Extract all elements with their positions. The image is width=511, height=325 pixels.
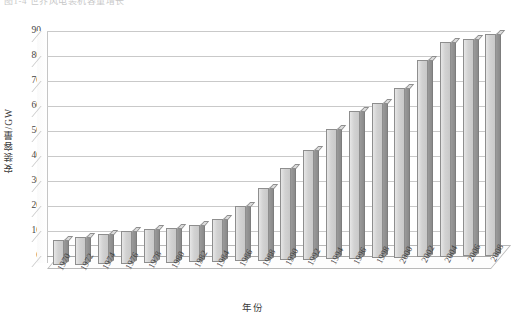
bar-side [314,146,319,260]
bar-front [349,111,360,259]
bar-top [269,184,278,189]
bar-front [417,60,428,258]
bar-top [132,227,141,232]
bar-top [246,202,255,207]
bar-top [86,233,95,238]
x-axis-title: 年份 [242,300,264,314]
bar-top [405,84,414,89]
bar-front [372,103,383,258]
plot-area [47,31,491,263]
bar-top [337,125,346,130]
bar-2004 [440,42,451,257]
bar-top [474,35,483,40]
bar-1990 [280,168,291,261]
bar-top [177,224,186,229]
bar-top [383,99,392,104]
bar-top [109,230,118,235]
bar-top [200,221,209,226]
x-axis: 1970197219741976197819801982198419861988… [0,266,498,325]
bar-front [440,42,451,257]
bar-side [428,56,433,257]
bar-2000 [394,88,405,258]
bar-side [383,99,388,258]
bar-top [428,56,437,61]
bar-side [451,38,456,257]
bar-top [291,164,300,169]
bar-2008 [485,34,496,257]
bar-front [280,168,291,261]
bar-top [155,225,164,230]
bar-front [303,150,314,260]
bar-side [405,84,410,258]
bar-top [223,215,232,220]
bar-side [337,125,342,259]
bar-2006 [463,39,474,257]
bar-top [451,38,460,43]
bar-1992 [303,150,314,260]
bar-top [496,30,505,35]
bar-series [47,31,491,263]
bar-front [326,129,337,259]
bar-1998 [372,103,383,258]
bar-front [463,39,474,257]
bar-top [64,236,73,241]
bar-top [360,107,369,112]
bar-side [496,30,501,256]
bar-front [394,88,405,258]
bar-1994 [326,129,337,259]
bar-side [291,164,296,260]
bar-2002 [417,60,428,258]
bar-1996 [349,111,360,259]
bar-side [474,35,479,256]
bar-front [485,34,496,257]
bar-top [314,146,323,151]
bar-side [360,107,365,258]
y-axis-title: 安装容量/GW [2,108,16,173]
